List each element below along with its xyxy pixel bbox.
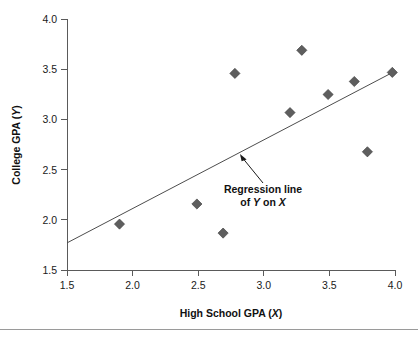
- x-tick-label: 4.0: [388, 279, 403, 291]
- annotation-variable-x: X: [278, 196, 287, 208]
- y-tick-label: 3.0: [42, 113, 57, 125]
- y-axis-title-tail: ): [10, 105, 22, 109]
- x-tick-label: 2.0: [125, 279, 140, 291]
- y-tick-label: 4.0: [42, 13, 57, 25]
- x-tick-label: 2.5: [191, 279, 206, 291]
- x-tick-label: 3.0: [256, 279, 271, 291]
- x-axis-title-tail: ): [279, 307, 283, 319]
- scatter-plot-figure: 4.0 3.5 3.0 2.5 2.0 1.5 1.5 2.0 2.5 3.0 …: [0, 0, 418, 339]
- x-axis-title: High School GPA (X): [180, 307, 283, 319]
- annotation-line-1: Regression line: [224, 183, 302, 195]
- y-axis-title-main: College GPA (: [10, 115, 22, 184]
- x-tick-label: 1.5: [60, 279, 75, 291]
- x-axis-title-main: High School GPA (: [180, 307, 273, 319]
- x-tick-label: 3.5: [322, 279, 337, 291]
- chart-canvas: 4.0 3.5 3.0 2.5 2.0 1.5 1.5 2.0 2.5 3.0 …: [0, 0, 418, 339]
- annotation-line-2: of Y on X: [240, 196, 287, 208]
- y-tick-label: 1.5: [42, 264, 57, 276]
- y-tick-label: 2.0: [42, 214, 57, 226]
- y-tick-label: 3.5: [42, 63, 57, 75]
- annotation-of: of: [240, 196, 253, 208]
- y-tick-label: 2.5: [42, 164, 57, 176]
- annotation-on: on: [260, 196, 279, 208]
- y-axis-title: College GPA (Y): [10, 105, 22, 184]
